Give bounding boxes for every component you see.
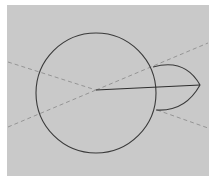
dashed-line-lower-left [8, 90, 96, 127]
dashed-line-upper-left [8, 62, 96, 90]
dashed-line-lower-right [157, 110, 208, 128]
radius-line [96, 85, 200, 90]
main-circle [36, 33, 156, 153]
dashed-line-upper-right [96, 43, 208, 90]
geometry-diagram [0, 0, 213, 184]
